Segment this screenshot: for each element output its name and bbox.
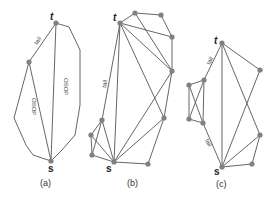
label-tail: tail xyxy=(101,80,108,89)
panel-b: t s tail (b) xyxy=(88,10,174,188)
label-tail: tail xyxy=(33,36,42,46)
caption-b: (b) xyxy=(127,178,138,188)
label-s: s xyxy=(48,163,54,174)
label-face-left: OSOP xyxy=(31,98,37,115)
edge-t-to-s xyxy=(51,23,56,161)
node-t xyxy=(219,40,224,45)
label-t: t xyxy=(113,12,117,23)
label-s: s xyxy=(214,166,220,177)
node-s xyxy=(111,159,116,164)
node-t xyxy=(117,20,122,25)
label-t: t xyxy=(214,35,218,46)
label-s: s xyxy=(106,163,112,174)
label-tail-top: tail xyxy=(205,56,214,65)
node-mid xyxy=(26,59,31,64)
label-tail-bottom: tail xyxy=(204,138,213,147)
caption-a: (a) xyxy=(40,178,51,188)
node-s xyxy=(219,164,224,169)
graph-figure: t s tail OSOP OSOP (a) xyxy=(0,0,275,200)
panel-a: t s tail OSOP OSOP (a) xyxy=(14,11,80,188)
panel-c: t s tail tail (c) xyxy=(186,35,262,189)
label-face-right: OSOP xyxy=(63,78,69,95)
label-t: t xyxy=(50,11,54,22)
node-t xyxy=(53,20,58,25)
caption-c: (c) xyxy=(216,179,227,189)
